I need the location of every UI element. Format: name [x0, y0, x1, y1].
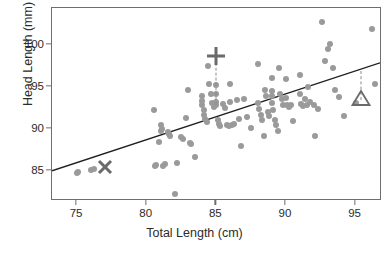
data-point — [305, 84, 311, 90]
data-point — [290, 118, 296, 124]
data-point — [227, 99, 233, 105]
data-point — [204, 119, 210, 125]
data-point — [283, 76, 289, 82]
plot-area — [52, 8, 380, 199]
plus-marker — [206, 46, 226, 70]
x-axis-tick — [215, 200, 216, 205]
x-axis-tick — [284, 200, 285, 205]
y-axis-tick — [46, 127, 51, 128]
plot-frame — [51, 7, 381, 200]
data-point — [244, 114, 250, 120]
data-point — [236, 116, 242, 122]
data-point — [297, 91, 303, 97]
data-point — [234, 97, 240, 103]
y-axis-tick-label: 85 — [31, 164, 44, 176]
x-axis-tick-label: 85 — [209, 207, 222, 219]
data-point — [269, 100, 275, 106]
data-point — [75, 169, 81, 175]
x-axis-tick — [145, 200, 146, 205]
data-point — [185, 87, 191, 93]
data-point — [270, 107, 276, 113]
data-point — [369, 26, 375, 32]
data-point — [288, 102, 294, 108]
x-axis-tick-label: 90 — [279, 207, 292, 219]
data-point — [174, 160, 180, 166]
data-point — [372, 81, 378, 87]
data-point — [322, 58, 328, 64]
data-point — [227, 81, 233, 87]
x-axis-tick-label: 95 — [348, 207, 361, 219]
data-point — [336, 94, 342, 100]
x-axis-label: Total Length (cm) — [0, 226, 389, 240]
data-point — [172, 191, 178, 197]
x-marker — [96, 159, 113, 180]
data-point — [269, 75, 275, 81]
data-point — [315, 106, 321, 112]
data-point — [222, 105, 228, 111]
data-point — [151, 107, 157, 113]
data-point — [261, 133, 267, 139]
y-axis-label: Head Length (mm) — [21, 0, 35, 134]
data-point — [255, 61, 261, 67]
data-point — [180, 136, 186, 142]
data-point — [341, 113, 347, 119]
data-point — [153, 162, 159, 168]
x-axis-tick — [75, 200, 76, 205]
data-point — [183, 115, 189, 121]
data-point — [256, 106, 262, 112]
data-point — [248, 125, 254, 131]
data-point — [238, 143, 244, 149]
data-point — [188, 141, 194, 147]
data-point — [312, 133, 318, 139]
data-point — [156, 139, 162, 145]
y-axis-tick — [46, 43, 51, 44]
data-point — [231, 121, 237, 127]
scatter-plot-figure: 7580859095859095100 Total Length (cm) He… — [0, 0, 389, 253]
x-axis-tick-label: 80 — [139, 207, 152, 219]
x-axis-tick — [354, 200, 355, 205]
x-axis-tick-label: 75 — [70, 207, 83, 219]
data-point — [319, 19, 325, 25]
data-point — [206, 81, 212, 87]
triangle-marker — [351, 89, 371, 111]
data-point — [283, 95, 289, 101]
data-point — [217, 123, 223, 129]
y-axis-tick — [46, 85, 51, 86]
data-point — [162, 161, 168, 167]
y-axis-tick — [46, 169, 51, 170]
data-point — [192, 154, 198, 160]
data-point — [269, 93, 275, 99]
data-point — [275, 128, 281, 134]
data-point — [330, 65, 336, 71]
data-point — [167, 133, 173, 139]
data-point — [241, 96, 247, 102]
data-point — [327, 41, 333, 47]
data-point — [259, 117, 265, 123]
data-point — [276, 65, 282, 71]
data-point — [297, 72, 303, 78]
data-point — [332, 87, 338, 93]
